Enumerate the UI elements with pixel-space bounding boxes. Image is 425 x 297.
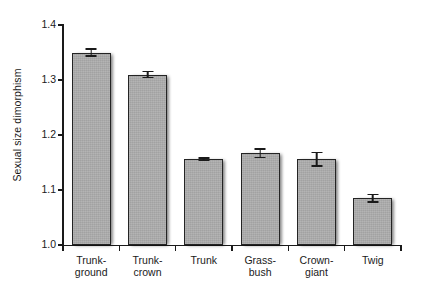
x-axis-category-line: Grass- xyxy=(232,255,288,267)
x-axis-area: Trunk-groundTrunk-crownTrunkGrass-bushCr… xyxy=(63,246,403,291)
error-bar xyxy=(311,152,322,167)
y-axis-tick xyxy=(58,79,63,81)
x-axis-category-line: Trunk- xyxy=(63,255,119,267)
error-bar xyxy=(255,148,266,158)
y-axis-tick xyxy=(58,24,63,26)
x-axis-category-line: Trunk xyxy=(176,255,232,267)
x-axis-category-label: Trunk xyxy=(176,255,232,267)
bar-slot xyxy=(353,25,392,245)
x-axis-category-line: crown xyxy=(119,267,175,279)
x-axis-tick xyxy=(231,246,233,251)
error-bar xyxy=(142,71,153,79)
x-axis-tick xyxy=(288,246,290,251)
error-bar-cap-bottom xyxy=(142,77,153,79)
error-bar-cap-bottom xyxy=(198,160,209,162)
error-bar xyxy=(367,194,378,203)
bar[interactable] xyxy=(128,75,167,246)
error-bar xyxy=(86,48,97,57)
bar-slot xyxy=(128,25,167,245)
x-axis-category-line: Twig xyxy=(345,255,401,267)
y-axis-tick-label: 1.2 xyxy=(24,128,56,140)
bar-slot xyxy=(184,25,223,245)
x-axis-category-label: Grass-bush xyxy=(232,255,288,278)
x-axis-category-label: Trunk-ground xyxy=(63,255,119,278)
error-bar xyxy=(198,157,209,161)
bar[interactable] xyxy=(353,198,392,245)
bar-chart-figure: Sexual size dimorphism 1.01.11.21.31.4 T… xyxy=(0,0,425,297)
y-axis-tick xyxy=(58,189,63,191)
error-bar-cap-bottom xyxy=(86,55,97,57)
y-axis-tick-label: 1.0 xyxy=(24,238,56,250)
y-axis-title: Sexual size dimorphism xyxy=(6,0,28,250)
bar[interactable] xyxy=(184,159,223,245)
bar-slot xyxy=(297,25,336,245)
x-axis-category-line: giant xyxy=(288,267,344,279)
bar[interactable] xyxy=(241,153,280,245)
y-axis-title-text: Sexual size dimorphism xyxy=(11,68,23,181)
x-axis-tick xyxy=(119,246,121,251)
error-bar-cap-bottom xyxy=(255,157,266,159)
x-axis-category-line: Crown- xyxy=(288,255,344,267)
x-axis-category-line: Trunk- xyxy=(119,255,175,267)
y-axis-tick xyxy=(58,134,63,136)
x-axis-tick xyxy=(62,246,64,251)
x-axis-category-line: bush xyxy=(232,267,288,279)
bar-slot xyxy=(241,25,280,245)
x-axis-tick xyxy=(344,246,346,251)
x-axis-category-line: ground xyxy=(63,267,119,279)
error-bar-cap-bottom xyxy=(367,201,378,203)
y-axis-tick-label: 1.3 xyxy=(24,73,56,85)
x-axis-category-label: Trunk-crown xyxy=(119,255,175,278)
y-axis-tick-label: 1.4 xyxy=(24,18,56,30)
x-axis-tick xyxy=(400,246,402,251)
x-axis-category-label: Crown-giant xyxy=(288,255,344,278)
x-axis-category-label: Twig xyxy=(345,255,401,267)
bar[interactable] xyxy=(297,159,336,245)
bar-slot xyxy=(72,25,111,245)
plot-area xyxy=(63,25,401,245)
error-bar-cap-bottom xyxy=(311,165,322,167)
x-axis-tick xyxy=(175,246,177,251)
y-axis-tick-label: 1.1 xyxy=(24,183,56,195)
bar[interactable] xyxy=(72,53,111,246)
